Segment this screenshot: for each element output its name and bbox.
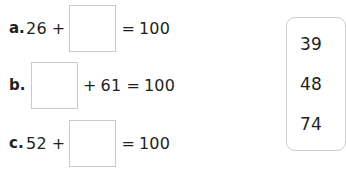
answer-box-c[interactable] <box>69 120 116 167</box>
number-bank-panel: 39 48 74 <box>286 17 346 151</box>
answer-box-b[interactable] <box>31 62 78 109</box>
equation-b-plus-sign: + <box>83 76 97 95</box>
equation-a-left-operand: 26 <box>26 19 47 38</box>
number-bank-item[interactable]: 48 <box>300 76 322 93</box>
equation-label-b: b. <box>0 76 26 94</box>
number-bank-item[interactable]: 39 <box>300 36 322 53</box>
equation-c-left-operand: 52 <box>26 134 47 153</box>
equation-b-equals-sign: = <box>126 76 140 95</box>
equation-row-c: c. 52 + = 100 <box>0 117 230 169</box>
equation-b-right-operand: 61 <box>101 76 122 95</box>
answer-box-a[interactable] <box>69 5 116 52</box>
equation-c-equals-sign: = <box>121 134 135 153</box>
equation-c-sum: 100 <box>139 134 170 153</box>
equation-a-equals-sign: = <box>121 19 135 38</box>
number-bank-item[interactable]: 74 <box>300 116 322 133</box>
equation-b-sum: 100 <box>144 76 175 95</box>
equation-label-c: c. <box>0 134 26 152</box>
equation-row-a: a. 26 + = 100 <box>0 2 230 54</box>
equation-c-plus-sign: + <box>52 134 66 153</box>
equation-row-b: b. + 61 = 100 <box>0 59 230 111</box>
equation-label-a: a. <box>0 19 26 37</box>
equation-a-sum: 100 <box>139 19 170 38</box>
equation-a-plus-sign: + <box>52 19 66 38</box>
